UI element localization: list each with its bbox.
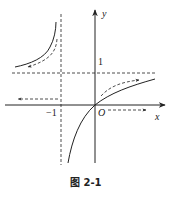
y-axis-label: y bbox=[101, 8, 107, 19]
trend-arrow-left-branch bbox=[28, 39, 57, 67]
origin-label: O bbox=[98, 107, 105, 118]
tick-label-x-neg1: −1 bbox=[46, 107, 57, 118]
x-axis-label: x bbox=[154, 111, 160, 122]
function-graph: y x O 1 −1 图 2-1 bbox=[0, 0, 171, 200]
curve-right-branch bbox=[68, 79, 155, 163]
figure-caption: 图 2-1 bbox=[70, 177, 102, 188]
curve-left-branch bbox=[15, 22, 56, 67]
tick-label-y-1: 1 bbox=[98, 56, 103, 67]
trend-arrow-right-branch bbox=[101, 80, 139, 96]
